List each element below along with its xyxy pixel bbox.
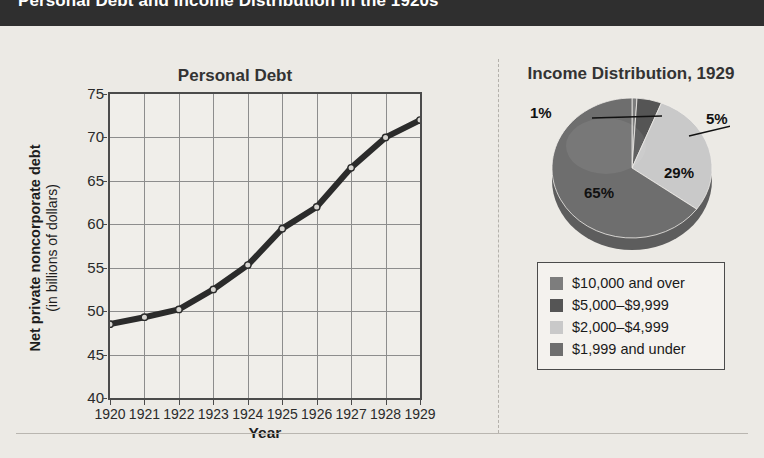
y-axis-tick-label: 40: [70, 389, 104, 406]
pie-highlight: [566, 118, 646, 174]
x-axis-tick-mark: [248, 400, 249, 405]
legend-color-swatch: [550, 321, 563, 334]
data-point-marker: [245, 262, 251, 268]
data-point-marker: [313, 204, 319, 210]
pie-chart-income-distribution: Income Distribution, 1929 1%5%29%65% $10…: [498, 52, 764, 458]
legend-color-swatch: [550, 343, 563, 356]
legend-item: $10,000 and over: [550, 272, 714, 294]
pie-slice-percentage-label: 1%: [530, 104, 552, 121]
figure-personal-debt-income-distribution: Personal Debt and Income Distribution in…: [0, 0, 764, 458]
x-axis-tick-mark: [282, 400, 283, 405]
y-axis-tick-label: 60: [70, 215, 104, 232]
y-axis-label: Net private noncorporate debt (in billio…: [27, 123, 67, 373]
y-axis-ticks: 7570656055504540: [64, 92, 104, 400]
x-axis-tick-mark: [144, 400, 145, 405]
data-point-marker: [110, 321, 113, 327]
y-axis-label-sub: (in billions of dollars): [44, 123, 60, 373]
x-axis-tick-mark: [386, 400, 387, 405]
figure-header-bar: Personal Debt and Income Distribution in…: [0, 0, 764, 26]
pie-chart-title: Income Distribution, 1929: [498, 64, 764, 84]
y-axis-tick-mark: [102, 311, 107, 312]
y-axis-tick-label: 55: [70, 259, 104, 276]
x-axis-tick-mark: [110, 400, 111, 405]
y-axis-tick-label: 45: [70, 346, 104, 363]
legend-color-swatch: [550, 299, 563, 312]
pie-slice-percentage-label: 65%: [584, 184, 614, 201]
line-chart-plot-area: [108, 92, 422, 400]
data-point-marker: [141, 314, 147, 320]
data-point-marker: [348, 165, 354, 171]
legend-item-label: $5,000–$9,999: [572, 297, 669, 313]
line-chart-personal-debt: Personal Debt Net private noncorporate d…: [0, 52, 498, 458]
y-axis-tick-label: 65: [70, 172, 104, 189]
data-point-marker: [210, 286, 216, 292]
legend-item: $2,000–$4,999: [550, 316, 714, 338]
y-axis-tick-label: 50: [70, 302, 104, 319]
y-axis-tick-mark: [102, 181, 107, 182]
pie-chart-legend: $10,000 and over$5,000–$9,999$2,000–$4,9…: [537, 262, 725, 370]
legend-item-label: $2,000–$4,999: [572, 319, 669, 335]
pie-slice-percentage-label: 5%: [706, 110, 728, 127]
legend-item-label: $10,000 and over: [572, 275, 685, 291]
legend-item-label: $1,999 and under: [572, 341, 686, 357]
y-axis-label-main: Net private noncorporate debt: [27, 123, 44, 373]
line-series-svg: [110, 94, 420, 398]
x-axis-tick-mark: [351, 400, 352, 405]
pie-slices-svg: [534, 92, 730, 254]
legend-item: $5,000–$9,999: [550, 294, 714, 316]
pie-slice-percentage-label: 29%: [664, 164, 694, 181]
line-chart-title: Personal Debt: [0, 66, 470, 86]
data-point-marker: [279, 225, 285, 231]
y-axis-tick-label: 75: [70, 85, 104, 102]
y-axis-tick-mark: [102, 224, 107, 225]
x-axis-tick-mark: [179, 400, 180, 405]
legend-item: $1,999 and under: [550, 338, 714, 360]
pie-chart-stage: 1%5%29%65%: [498, 92, 764, 257]
x-axis-tick-mark: [420, 400, 421, 405]
y-axis-tick-label: 70: [70, 128, 104, 145]
y-axis-tick-mark: [102, 355, 107, 356]
x-axis-tick-mark: [317, 400, 318, 405]
figure-body: Personal Debt Net private noncorporate d…: [0, 26, 764, 432]
y-axis-tick-mark: [102, 137, 107, 138]
legend-color-swatch: [550, 277, 563, 290]
y-axis-tick-mark: [102, 94, 107, 95]
line-series-path: [110, 120, 420, 324]
y-axis-tick-mark: [102, 268, 107, 269]
x-axis-tick-label: 1929: [398, 406, 442, 422]
data-point-marker: [382, 134, 388, 140]
data-point-marker: [417, 117, 420, 123]
y-axis-tick-mark: [102, 398, 107, 399]
data-point-marker: [176, 306, 182, 312]
bottom-rule: [16, 433, 748, 434]
figure-title: Personal Debt and Income Distribution in…: [18, 0, 439, 11]
x-axis-tick-mark: [213, 400, 214, 405]
